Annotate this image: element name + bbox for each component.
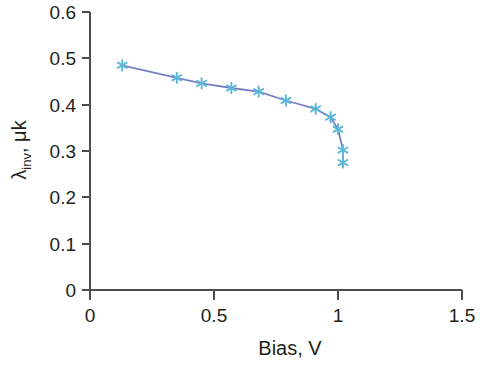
y-tick-label: 0 [65,280,76,301]
y-tick-label: 0.1 [50,234,76,255]
y-axis-title-subscript: inv [19,153,34,170]
x-tick-label: 0 [85,305,96,326]
y-tick-label: 0.3 [50,141,76,162]
chart-figure: 0.6 0.5 0.4 0.3 0.2 0.1 0 0 0.5 1 1.5 Bi… [0,0,480,366]
y-tick-label: 0.2 [50,187,76,208]
y-tick-label: 0.5 [50,48,76,69]
x-tick-label: 1.5 [449,305,475,326]
x-axis-title: Bias, V [258,337,322,359]
y-tick-label: 0.6 [50,2,76,23]
y-axis-title-lambda: λ [8,170,30,180]
x-tick-label: 1 [333,305,344,326]
y-tick-label: 0.4 [50,95,77,116]
line-chart: 0.6 0.5 0.4 0.3 0.2 0.1 0 0 0.5 1 1.5 Bi… [0,0,480,366]
y-axis-title-units: , μk [8,119,30,153]
x-tick-label: 0.5 [201,305,227,326]
